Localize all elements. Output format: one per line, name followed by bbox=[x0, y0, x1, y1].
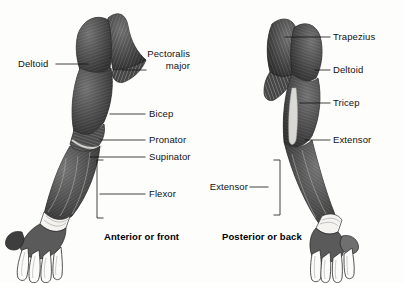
label-trapezius: Trapezius bbox=[333, 31, 375, 42]
label-pectoralis-major-line1: Pectoralis bbox=[78, 48, 190, 59]
label-pronator: Pronator bbox=[149, 134, 186, 145]
label-extensor-left: Extensor bbox=[188, 181, 248, 192]
hand-anterior bbox=[5, 224, 66, 283]
caption-anterior: Anterior or front bbox=[104, 231, 179, 242]
bracket-flexor bbox=[97, 160, 103, 218]
label-tricep: Tricep bbox=[333, 97, 360, 108]
caption-posterior: Posterior or back bbox=[222, 231, 302, 242]
tricep-muscle bbox=[283, 74, 320, 147]
label-bicep: Bicep bbox=[149, 108, 173, 119]
label-flexor: Flexor bbox=[149, 188, 176, 199]
hand-posterior bbox=[310, 228, 359, 283]
bracket-extensor bbox=[274, 160, 280, 215]
label-pectoralis-major-line2: major bbox=[78, 60, 190, 71]
bicep-muscle bbox=[72, 68, 112, 135]
label-extensor-right: Extensor bbox=[333, 134, 371, 145]
label-supinator: Supinator bbox=[149, 151, 191, 162]
anatomy-diagram: Deltoid Pectoralis major Bicep Pronator … bbox=[0, 0, 404, 283]
label-deltoid-posterior: Deltoid bbox=[333, 64, 363, 75]
posterior-arm-figure bbox=[264, 19, 359, 283]
label-deltoid-anterior: Deltoid bbox=[18, 58, 48, 69]
deltoid-muscle-posterior bbox=[291, 24, 322, 82]
